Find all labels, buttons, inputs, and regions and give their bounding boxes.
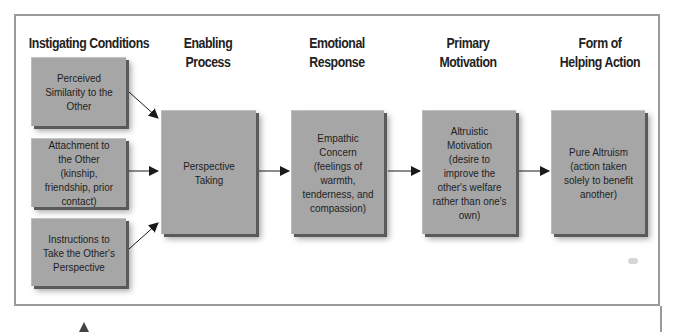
scan-artifact	[628, 258, 638, 264]
arrow-instructions-to-perspective	[129, 223, 158, 249]
arrow-similarity-to-perspective	[129, 92, 158, 118]
up-arrow-icon	[79, 322, 89, 332]
arrows-layer	[0, 0, 674, 332]
